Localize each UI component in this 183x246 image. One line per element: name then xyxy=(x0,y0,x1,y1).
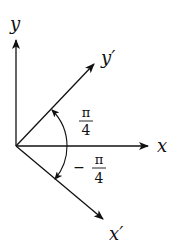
lower-angle-label: − π 4 xyxy=(73,152,106,186)
lower-angle-sign: − xyxy=(73,159,85,175)
x-prime-axis xyxy=(16,146,103,219)
rotation-diagram: y x y′ x′ π 4 − π 4 xyxy=(0,0,183,246)
upper-angle-denominator: 4 xyxy=(82,122,91,138)
upper-angle-numerator: π xyxy=(82,105,91,120)
y-axis-label: y xyxy=(9,13,21,34)
lower-angle-denominator: 4 xyxy=(95,170,104,186)
lower-angle-arc xyxy=(55,146,67,179)
x-axis-label: x xyxy=(157,135,167,156)
x-prime-label: x′ xyxy=(109,223,123,244)
y-prime-label: y′ xyxy=(100,47,115,68)
lower-angle-numerator: π xyxy=(95,152,104,167)
upper-angle-label: π 4 xyxy=(79,105,93,138)
upper-angle-arc xyxy=(52,110,67,146)
